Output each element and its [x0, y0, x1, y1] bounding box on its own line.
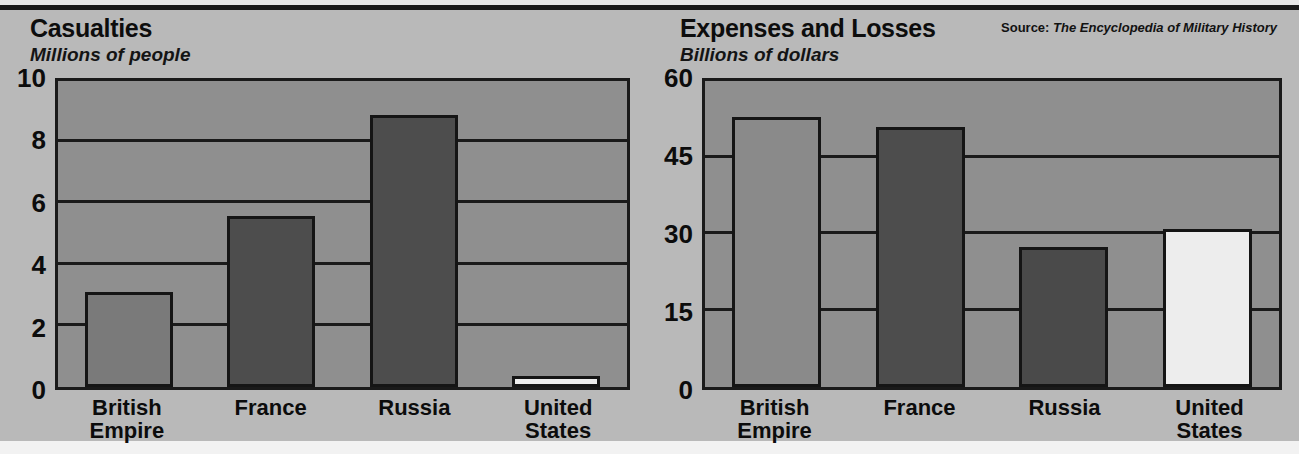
y-axis-tick-label: 8	[32, 127, 46, 153]
x-axis-tick-label: British Empire	[702, 397, 847, 443]
bar	[227, 216, 315, 387]
source-credit: Source: The Encyclopedia of Military His…	[1001, 20, 1277, 35]
y-axis-tick-label: 6	[32, 190, 46, 216]
x-axis-tick-label: Russia	[992, 397, 1137, 420]
source-name: The Encyclopedia of Military History	[1053, 20, 1277, 35]
page-title: Casualties	[30, 14, 152, 43]
plot-area-expenses: 015304560 British EmpireFranceRussiaUnit…	[702, 78, 1282, 390]
bar	[876, 127, 965, 387]
y-axis-tick-label: 0	[679, 377, 693, 403]
x-axis-tick-label: United States	[1137, 397, 1282, 443]
bar	[512, 376, 600, 387]
y-axis-tick-label: 0	[32, 377, 46, 403]
gridline	[58, 262, 627, 265]
chart-subtitle-units-secondary: Billions of dollars	[680, 44, 839, 66]
chart-subtitle-units: Millions of people	[30, 44, 190, 66]
chart-page: Casualties Millions of people 0246810 Br…	[0, 0, 1299, 454]
source-label: Source:	[1001, 20, 1049, 35]
x-axis-tick-label: France	[847, 397, 992, 420]
bar	[85, 292, 173, 387]
chart-panel-casualties: Casualties Millions of people 0246810 Br…	[0, 10, 650, 441]
y-axis-tick-label: 10	[17, 65, 46, 91]
x-axis-tick-label: British Empire	[55, 397, 199, 443]
gridline	[58, 200, 627, 203]
page-title-secondary: Expenses and Losses	[680, 14, 936, 43]
bar	[1163, 229, 1252, 387]
gridline	[58, 139, 627, 142]
bar	[732, 117, 821, 387]
y-axis-tick-label: 2	[32, 315, 46, 341]
plot-area-casualties: 0246810 British EmpireFranceRussiaUnited…	[55, 78, 630, 390]
plot-canvas	[55, 78, 630, 390]
bar	[370, 115, 458, 387]
y-axis-tick-label: 15	[664, 299, 693, 325]
chart-panel-expenses: Expenses and Losses Billions of dollars …	[650, 10, 1299, 441]
plot-canvas	[702, 78, 1282, 390]
x-axis-tick-label: France	[199, 397, 343, 420]
y-axis-tick-label: 4	[32, 252, 46, 278]
x-axis-tick-label: Russia	[343, 397, 487, 420]
y-axis-tick-label: 60	[664, 65, 693, 91]
page-bottom-margin	[0, 441, 1299, 454]
y-axis-tick-label: 45	[664, 143, 693, 169]
x-axis-tick-label: United States	[486, 397, 630, 443]
y-axis-tick-label: 30	[664, 221, 693, 247]
bar	[1019, 247, 1108, 387]
